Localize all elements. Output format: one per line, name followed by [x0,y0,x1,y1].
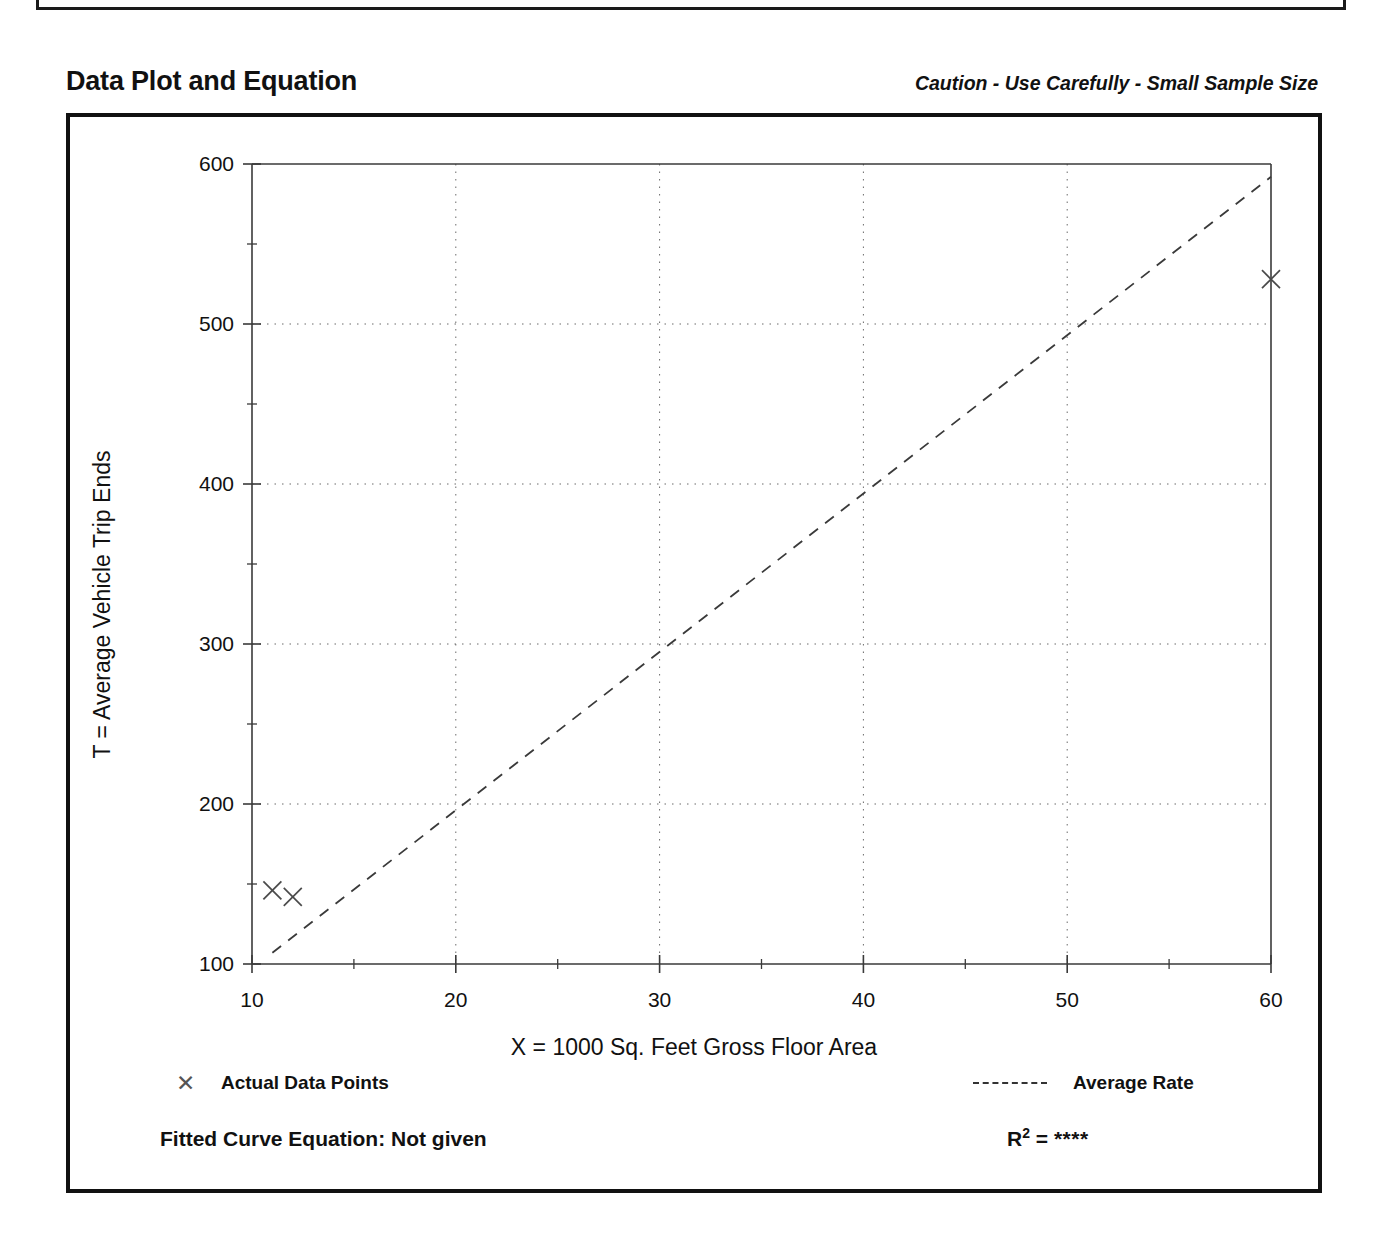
plot-canvas [70,117,1318,1189]
dashed-line-icon [973,1082,1047,1084]
legend-item-actual-data-points: ✕ Actual Data Points [175,1072,389,1094]
x-tick-label: 20 [444,988,467,1012]
grid-lines [252,164,1271,964]
x-tick-label: 60 [1259,988,1282,1012]
y-tick-label: 200 [162,792,234,816]
x-tick-label: 40 [852,988,875,1012]
y-axis-title: T = Average Vehicle Trip Ends [89,315,116,895]
caution-note: Caution - Use Carefully - Small Sample S… [915,72,1318,95]
x-tick-label: 10 [240,988,263,1012]
y-tick-label: 600 [162,152,234,176]
x-tick-label: 30 [648,988,671,1012]
x-marker-icon: ✕ [175,1073,195,1093]
page-title: Data Plot and Equation [66,66,357,97]
r-squared-equals: = [1030,1127,1054,1150]
y-tick-label: 400 [162,472,234,496]
legend-label-actual-data-points: Actual Data Points [221,1072,389,1094]
r-squared-value: R2 = **** [1007,1125,1089,1151]
data-series [263,177,1280,953]
y-tick-label: 300 [162,632,234,656]
tick-marks [243,164,1271,973]
legend-item-average-rate: Average Rate [973,1072,1194,1094]
y-tick-label: 500 [162,312,234,336]
legend-label-average-rate: Average Rate [1073,1072,1194,1094]
chart-panel: 100200300400500600 102030405060 T = Aver… [66,113,1322,1193]
axis-lines [252,164,1271,964]
r-squared-stars: **** [1054,1127,1089,1150]
r-squared-exponent: 2 [1022,1125,1030,1141]
x-axis-title: X = 1000 Sq. Feet Gross Floor Area [70,1034,1318,1061]
chart-area: 100200300400500600 102030405060 T = Aver… [70,117,1318,1189]
r-squared-symbol: R [1007,1127,1022,1150]
fitted-curve-equation: Fitted Curve Equation: Not given [160,1127,487,1151]
x-tick-label: 50 [1056,988,1079,1012]
y-tick-label: 100 [162,952,234,976]
truncated-panel-above [36,0,1346,10]
